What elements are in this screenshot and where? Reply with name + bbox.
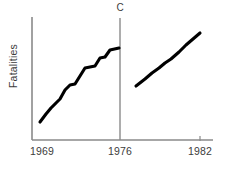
x-tick-label-1982: 1982 bbox=[180, 145, 220, 157]
data-line-post-intervention bbox=[136, 33, 200, 86]
intervention-marker-label: C bbox=[108, 2, 132, 13]
chart-container: Fatalities C 1969 1976 1982 bbox=[0, 0, 228, 174]
y-axis-label: Fatalities bbox=[7, 31, 19, 101]
x-tick-label-1969: 1969 bbox=[22, 145, 62, 157]
data-line-pre-intervention bbox=[40, 48, 119, 122]
x-tick-label-1976: 1976 bbox=[100, 145, 140, 157]
